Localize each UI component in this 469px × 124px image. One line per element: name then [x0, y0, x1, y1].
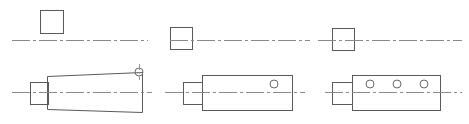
- panel-3-top-view-square: [333, 29, 355, 51]
- drawing-svg: [0, 0, 469, 124]
- panel-2-top-view-square: [171, 28, 193, 50]
- panel-1: [12, 11, 152, 113]
- panel-3-hole-2: [393, 80, 401, 88]
- panel-2-hole-1: [270, 80, 278, 88]
- panel-2: [165, 28, 310, 111]
- panel-3-hole-1: [366, 80, 374, 88]
- panel-2-step-block: [184, 83, 203, 105]
- panel-3-step-block: [333, 83, 353, 105]
- panel-3-hole-3: [420, 80, 428, 88]
- panel-1-step-block: [31, 83, 49, 105]
- technical-drawing-canvas: [0, 0, 469, 124]
- panel-3: [318, 29, 462, 111]
- panel-1-top-view-square: [41, 11, 64, 34]
